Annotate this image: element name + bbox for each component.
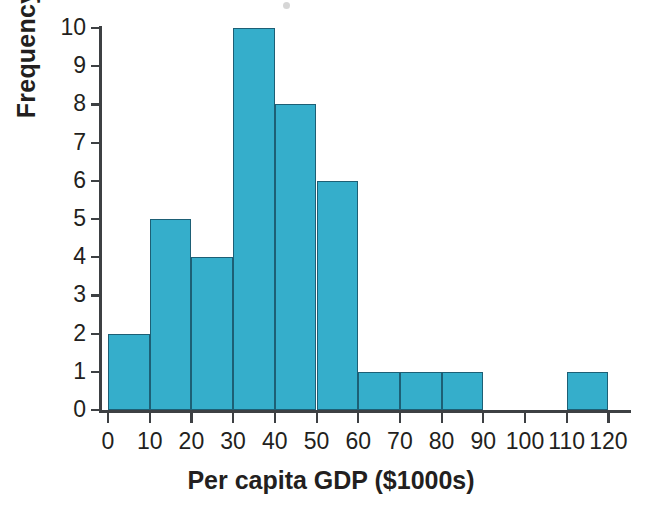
x-tick-120 <box>607 412 609 423</box>
y-tick-label-10: 10 <box>42 16 86 39</box>
histogram-bar <box>191 257 233 410</box>
y-tick-8 <box>91 103 100 105</box>
x-tick-40 <box>274 412 276 423</box>
y-tick-10 <box>91 27 100 29</box>
x-tick-10 <box>149 412 151 423</box>
x-tick-60 <box>357 412 359 423</box>
x-tick-70 <box>399 412 401 423</box>
histogram-bar <box>150 219 192 410</box>
x-tick-100 <box>524 412 526 423</box>
y-tick-label-0: 0 <box>42 398 86 421</box>
y-tick-4 <box>91 256 100 258</box>
histogram-bar <box>358 372 400 410</box>
x-tick-110 <box>566 412 568 423</box>
histogram-bar <box>400 372 442 410</box>
x-axis-line <box>99 410 631 413</box>
y-tick-label-1: 1 <box>42 360 86 383</box>
y-tick-label-9: 9 <box>42 54 86 77</box>
x-tick-80 <box>441 412 443 423</box>
histogram-bar <box>108 334 150 410</box>
y-tick-label-6: 6 <box>42 169 86 192</box>
y-tick-0 <box>91 409 100 411</box>
y-tick-label-3: 3 <box>42 283 86 306</box>
histogram-bar <box>275 104 317 410</box>
x-tick-label-120: 120 <box>578 428 638 454</box>
scan-artifact-speck <box>283 2 290 9</box>
y-tick-5 <box>91 218 100 220</box>
y-tick-1 <box>91 371 100 373</box>
y-tick-2 <box>91 333 100 335</box>
y-tick-7 <box>91 142 100 144</box>
y-tick-9 <box>91 65 100 67</box>
histogram-bar <box>233 28 275 410</box>
histogram-bar <box>442 372 484 410</box>
y-tick-label-4: 4 <box>42 245 86 268</box>
x-tick-0 <box>107 412 109 423</box>
y-tick-label-8: 8 <box>42 92 86 115</box>
histogram-figure: Frequency 012345678910 01020304050607080… <box>0 0 662 517</box>
y-tick-label-5: 5 <box>42 207 86 230</box>
x-tick-30 <box>232 412 234 423</box>
histogram-bar <box>317 181 359 410</box>
y-tick-3 <box>91 294 100 296</box>
x-tick-50 <box>316 412 318 423</box>
histogram-bar <box>567 372 609 410</box>
y-tick-label-2: 2 <box>42 322 86 345</box>
x-tick-90 <box>482 412 484 423</box>
x-axis-title: Per capita GDP ($1000s) <box>0 466 662 495</box>
x-tick-20 <box>190 412 192 423</box>
y-tick-label-7: 7 <box>42 131 86 154</box>
y-tick-6 <box>91 180 100 182</box>
